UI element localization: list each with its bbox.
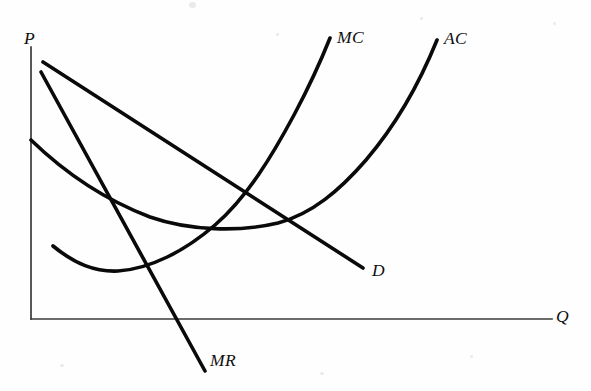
marginal-revenue-curve (41, 72, 205, 371)
diagram-canvas (0, 0, 591, 391)
y-axis-label: P (24, 30, 35, 48)
curve-label-mr: MR (210, 352, 236, 370)
average-cost-curve (31, 40, 437, 229)
curve-label-mc: MC (337, 29, 364, 47)
economics-diagram: P Q MC AC D MR (0, 0, 591, 391)
x-axis-label: Q (556, 308, 569, 326)
marginal-cost-curve (53, 38, 330, 271)
curve-label-d: D (372, 262, 385, 280)
curve-label-ac: AC (444, 30, 467, 48)
